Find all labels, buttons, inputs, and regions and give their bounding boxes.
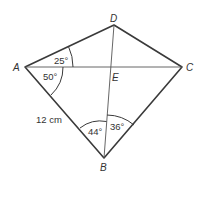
angle-label-CAB: 50°: [43, 71, 58, 82]
quadrilateral-ADCB: [25, 25, 182, 158]
vertex-label-B: B: [100, 162, 107, 173]
vertex-label-E: E: [112, 72, 119, 83]
vertex-label-D: D: [110, 13, 117, 24]
angle-label-DBC: 36°: [110, 121, 125, 132]
angle-label-DAC: 25°: [54, 55, 69, 66]
vertex-label-A: A: [12, 62, 20, 73]
angle-arc-DAC: [69, 47, 74, 68]
diagonal-DB: [104, 25, 114, 158]
angle-label-ABD: 44°: [88, 126, 103, 137]
diagram-canvas: D A C E B 25° 50° 44° 36° 12 cm: [0, 0, 216, 197]
vertex-label-C: C: [186, 62, 194, 73]
length-label-AB: 12 cm: [36, 114, 62, 125]
kite-diagram: D A C E B 25° 50° 44° 36° 12 cm: [0, 0, 216, 197]
